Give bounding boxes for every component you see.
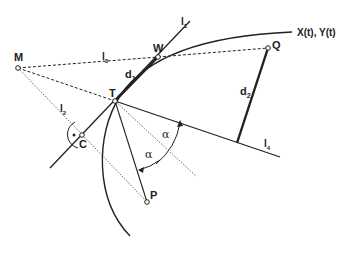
geometry-diagram: M W T C P Q X(t), Y(t) l1 l2 l3 l4 d1 d2… [0, 0, 350, 259]
label-l1: l1 [181, 16, 188, 29]
point-C [80, 133, 85, 138]
l2-sub: 2 [63, 110, 67, 116]
point-M [16, 66, 21, 71]
segment-d1 [115, 57, 158, 101]
label-d1: d1 [125, 68, 136, 82]
label-alpha-upper: α [162, 128, 170, 141]
d1-base: d [125, 68, 132, 80]
label-W: W [153, 42, 164, 54]
line-l3 [18, 57, 158, 68]
label-T: T [109, 87, 116, 99]
label-l2: l2 [60, 103, 67, 116]
label-l3: l3 [102, 51, 109, 64]
point-W [156, 55, 161, 60]
line-l4 [115, 101, 280, 157]
label-C: C [79, 138, 87, 150]
label-curve: X(t), Y(t) [297, 27, 336, 38]
label-d2: d2 [240, 85, 251, 99]
point-T [113, 99, 118, 104]
l4-sub: 4 [267, 145, 271, 151]
label-alpha-lower: α [145, 148, 153, 161]
d2-base: d [240, 85, 247, 97]
line-MT [18, 68, 115, 101]
label-Q: Q [272, 39, 281, 51]
d2-sub: 2 [247, 92, 251, 99]
label-M: M [14, 51, 23, 63]
point-P [145, 200, 150, 205]
label-P: P [150, 189, 157, 201]
d1-sub: 1 [132, 75, 136, 82]
label-l4: l4 [264, 138, 271, 151]
right-angle-dot [73, 134, 76, 137]
line-WQ [158, 48, 268, 57]
point-Q [266, 46, 271, 51]
alpha-arrow-2 [138, 167, 144, 173]
